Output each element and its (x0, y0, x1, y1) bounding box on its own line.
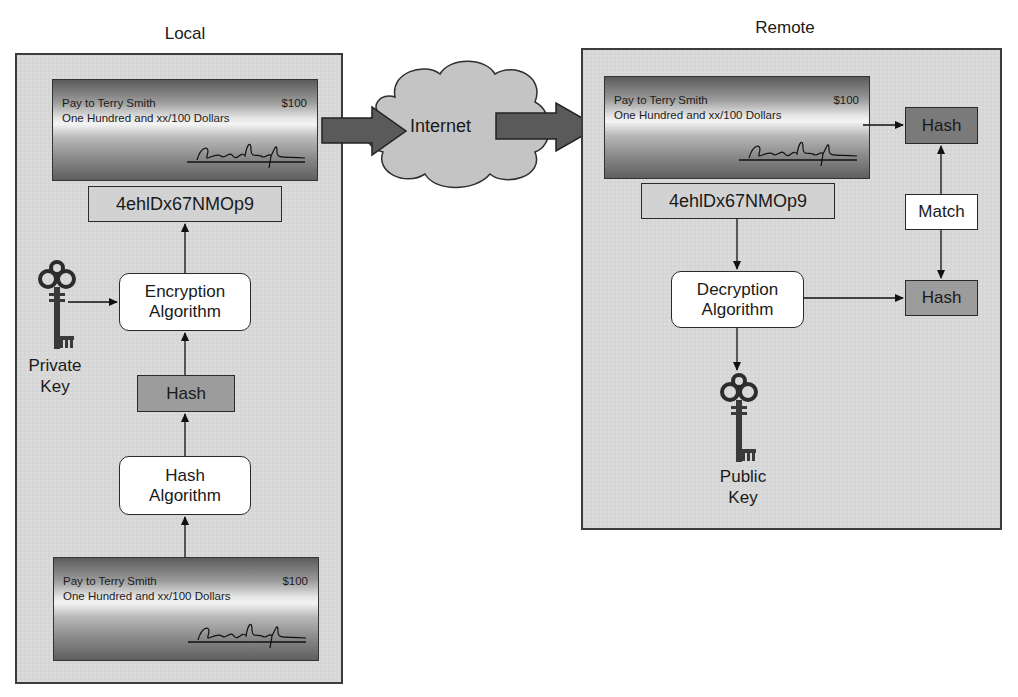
hash-algorithm-line1: Hash (165, 466, 205, 486)
remote-digital-signature: 4ehlDx67NMOp9 (641, 183, 835, 219)
check-amount-words: One Hundred and xx/100 Dollars (614, 109, 782, 121)
check-payee: Pay to Terry Smith (62, 97, 156, 109)
send-arrow-icon (320, 104, 410, 158)
signature-icon (729, 136, 859, 166)
local-digital-signature: 4ehlDx67NMOp9 (88, 186, 282, 222)
remote-received-check: Pay to Terry Smith One Hundred and xx/10… (604, 76, 870, 179)
remote-title: Remote (730, 18, 840, 38)
remote-hash-from-signature: Hash (905, 280, 978, 316)
public-key-icon (719, 373, 759, 465)
check-amount-words: One Hundred and xx/100 Dollars (63, 590, 231, 602)
check-payee: Pay to Terry Smith (614, 94, 708, 106)
private-key-icon (37, 260, 77, 352)
private-key-label-line2: Key (15, 376, 95, 397)
check-amount-words: One Hundred and xx/100 Dollars (62, 112, 230, 124)
check-amount: $100 (833, 94, 859, 106)
local-title: Local (130, 24, 240, 44)
internet-label: Internet (410, 116, 471, 137)
public-key-label-line1: Public (703, 466, 783, 487)
decryption-label-line2: Algorithm (702, 300, 774, 320)
signature-icon (177, 138, 307, 168)
encryption-label-line2: Algorithm (149, 302, 221, 322)
private-key-label-line1: Private (15, 355, 95, 376)
hash-algorithm-box: Hash Algorithm (119, 456, 251, 515)
hash-algorithm-line2: Algorithm (149, 486, 221, 506)
remote-hash-from-document: Hash (905, 107, 978, 144)
decryption-label-line1: Decryption (697, 280, 778, 300)
public-key-label-line2: Key (703, 487, 783, 508)
decryption-algorithm-box: Decryption Algorithm (671, 271, 804, 328)
local-hash-box: Hash (137, 375, 235, 412)
public-key-label: Public Key (703, 466, 783, 508)
check-amount: $100 (282, 575, 308, 587)
encryption-algorithm-box: Encryption Algorithm (119, 273, 251, 331)
check-payee: Pay to Terry Smith (63, 575, 157, 587)
private-key-label: Private Key (15, 355, 95, 397)
signature-icon (178, 618, 308, 648)
local-signed-check: Pay to Terry Smith One Hundred and xx/10… (52, 79, 318, 181)
match-box: Match (905, 194, 978, 230)
encryption-label-line1: Encryption (145, 282, 225, 302)
local-original-check: Pay to Terry Smith One Hundred and xx/10… (53, 557, 319, 661)
check-amount: $100 (281, 97, 307, 109)
